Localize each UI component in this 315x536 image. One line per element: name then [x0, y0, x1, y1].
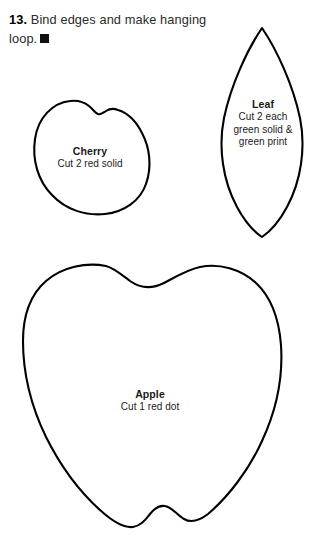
filled-square-icon — [40, 34, 49, 43]
leaf-label-line-2: green solid & — [217, 124, 309, 137]
step-number: 13. — [9, 12, 27, 27]
pattern-pieces-stage — [0, 0, 315, 536]
apple-piece-label: Apple Cut 1 red dot — [88, 388, 212, 414]
cherry-piece-label: Cherry Cut 2 red solid — [36, 145, 144, 171]
cherry-label-title: Cherry — [36, 145, 144, 158]
apple-label-line-1: Cut 1 red dot — [88, 401, 212, 414]
cherry-label-line-1: Cut 2 red solid — [36, 158, 144, 171]
leaf-label-line-3: green print — [217, 136, 309, 149]
leaf-label-title: Leaf — [217, 98, 309, 111]
leaf-label-line-1: Cut 2 each — [217, 111, 309, 124]
apple-label-title: Apple — [88, 388, 212, 401]
instruction-text: Bind edges and make hanging loop. — [9, 12, 206, 46]
instruction-step: 13. Bind edges and make hanging loop. — [9, 11, 209, 48]
leaf-piece-label: Leaf Cut 2 each green solid & green prin… — [217, 98, 309, 149]
